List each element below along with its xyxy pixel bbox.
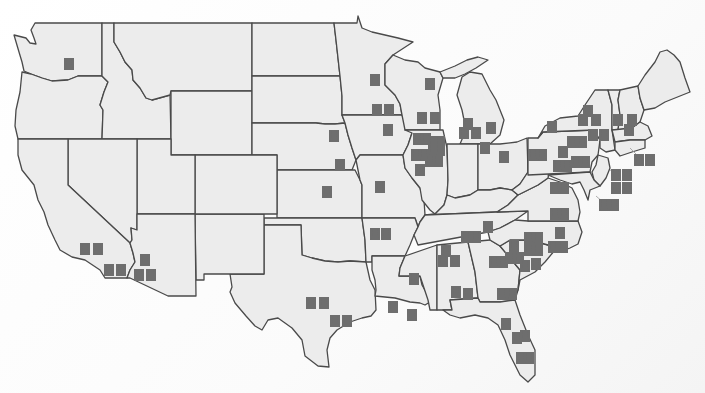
state-south-dakota [252, 76, 345, 124]
cooling-tower-icon [342, 315, 352, 327]
cooling-tower-icon [524, 244, 534, 256]
cooling-tower-icon [609, 199, 619, 211]
cooling-tower-icon [471, 231, 481, 243]
cooling-tower-icon [524, 352, 534, 364]
cooling-tower-icon [547, 121, 557, 133]
state-washington [14, 23, 102, 81]
cooling-tower-icon [407, 309, 417, 321]
cooling-tower-icon [645, 154, 655, 166]
cooling-tower-icon [450, 255, 460, 267]
cooling-tower-icon [559, 182, 569, 194]
cooling-tower-icon [146, 269, 156, 281]
cooling-tower-icon [330, 315, 340, 327]
cooling-tower-icon [588, 129, 598, 141]
cooling-tower-icon [486, 122, 496, 134]
cooling-tower-icon [498, 256, 508, 268]
cooling-tower-icon [558, 146, 568, 158]
cooling-tower-icon [507, 288, 517, 300]
cooling-tower-icon [533, 244, 543, 256]
cooling-tower-icon [599, 129, 609, 141]
map-canvas [0, 0, 705, 393]
state-north-dakota [252, 23, 340, 76]
cooling-tower-icon [388, 301, 398, 313]
cooling-tower-icon [548, 241, 558, 253]
cooling-tower-icon [553, 160, 563, 172]
cooling-tower-icon [451, 286, 461, 298]
cooling-tower-icon [415, 164, 425, 176]
cooling-tower-icon [571, 156, 581, 168]
cooling-tower-icon [140, 254, 150, 266]
cooling-tower-icon [591, 114, 601, 126]
cooling-tower-icon [520, 260, 530, 272]
cooling-tower-icon [550, 208, 560, 220]
state-wyoming [171, 91, 252, 155]
cooling-tower-icon [480, 142, 490, 154]
cooling-tower-icon [634, 154, 644, 166]
us-map [0, 0, 705, 393]
state-new-mexico [195, 214, 264, 280]
cooling-tower-icon [430, 112, 440, 124]
cooling-tower-icon [558, 241, 568, 253]
cooling-tower-icon [381, 228, 391, 240]
cooling-tower-icon [622, 182, 632, 194]
cooling-tower-icon [613, 114, 623, 126]
state-colorado [195, 155, 277, 214]
cooling-tower-icon [533, 232, 543, 244]
state-arizona [127, 214, 196, 296]
cooling-tower-icon [622, 169, 632, 181]
cooling-tower-icon [463, 288, 473, 300]
cooling-tower-icon [509, 240, 519, 252]
cooling-tower-icon [64, 58, 74, 70]
cooling-tower-icon [322, 186, 332, 198]
cooling-tower-icon [520, 330, 530, 342]
cooling-tower-icon [425, 78, 435, 90]
cooling-tower-icon [384, 104, 394, 116]
cooling-tower-icon [370, 74, 380, 86]
cooling-tower-icon [550, 182, 560, 194]
cooling-tower-icon [537, 149, 547, 161]
cooling-tower-icon [375, 181, 385, 193]
cooling-tower-icon [116, 264, 126, 276]
cooling-tower-icon [531, 258, 541, 270]
cooling-tower-icon [559, 208, 569, 220]
state-kansas [277, 170, 362, 218]
cooling-tower-icon [611, 169, 621, 181]
cooling-tower-icon [497, 288, 507, 300]
cooling-tower-icon [580, 156, 590, 168]
cooling-tower-icon [499, 151, 509, 163]
cooling-tower-icon [372, 104, 382, 116]
state-oregon [15, 72, 108, 139]
state-indiana [447, 144, 478, 198]
cooling-tower-icon [438, 255, 448, 267]
cooling-tower-icon [567, 136, 577, 148]
cooling-tower-icon [104, 264, 114, 276]
cooling-tower-icon [461, 231, 471, 243]
state-borders [14, 16, 690, 382]
cooling-tower-icon [524, 232, 534, 244]
cooling-tower-icon [471, 127, 481, 139]
cooling-tower-icon [483, 221, 493, 233]
cooling-tower-icon [599, 199, 609, 211]
cooling-tower-icon [433, 155, 443, 167]
cooling-tower-icon [435, 144, 445, 156]
cooling-tower-icon [370, 228, 380, 240]
cooling-tower-icon [409, 273, 419, 285]
cooling-tower-icon [335, 159, 345, 171]
cooling-tower-icon [489, 256, 499, 268]
cooling-tower-icon [417, 112, 427, 124]
cooling-tower-icon [562, 160, 572, 172]
state-maine [638, 50, 690, 110]
cooling-tower-icon [383, 124, 393, 136]
cooling-tower-icon [306, 297, 316, 309]
cooling-tower-icon [319, 297, 329, 309]
cooling-tower-icon [578, 114, 588, 126]
cooling-tower-icon [611, 182, 621, 194]
cooling-tower-icon [80, 243, 90, 255]
cooling-tower-icon [134, 269, 144, 281]
cooling-tower-icon [93, 243, 103, 255]
cooling-tower-icon [624, 124, 634, 136]
cooling-tower-icon [329, 130, 339, 142]
cooling-tower-icon [459, 127, 469, 139]
cooling-tower-icon [555, 227, 565, 239]
cooling-tower-icon [528, 149, 538, 161]
